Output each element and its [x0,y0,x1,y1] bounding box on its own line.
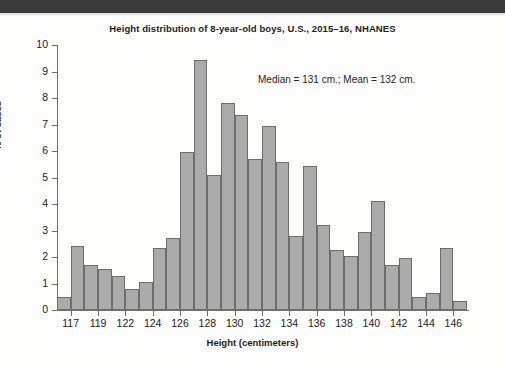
y-axis-tick [52,310,58,311]
histogram-bar [153,248,167,310]
histogram-bar [276,162,290,310]
chart-title: Height distribution of 8-year-old boys, … [0,23,505,34]
histogram-bar [166,238,180,310]
x-axis-tick [153,311,154,316]
x-axis-title: Height (centimeters) [0,337,505,348]
x-axis-tick [125,311,126,316]
histogram-bar [412,297,426,310]
histogram-bar [317,225,331,310]
histogram-bar [303,166,317,310]
x-axis-tick [289,311,290,316]
histogram-bar [262,126,276,310]
histogram-bar [84,265,98,310]
x-axis-tick [344,311,345,316]
y-axis-tick-label: 7 [18,118,48,130]
x-axis-tick [262,311,263,316]
y-axis-tick-label: 3 [18,224,48,236]
y-axis-tick-label: 8 [18,91,48,103]
histogram-bar [344,256,358,310]
histogram-bar [235,115,249,310]
histogram-bar [426,293,440,310]
y-axis-tick-label: 5 [18,171,48,183]
histogram-bar [98,269,112,310]
histogram-bar [248,159,262,310]
x-axis-tick [399,311,400,316]
y-axis-tick-label: 4 [18,197,48,209]
page-band-shadow [0,13,505,16]
y-axis-tick-label: 0 [18,303,48,315]
x-axis-line [57,310,469,311]
y-axis-tick-label: 6 [18,144,48,156]
x-axis-tick [426,311,427,316]
histogram-bar [180,152,194,310]
histogram-bar [139,282,153,310]
histogram-bar [440,248,454,310]
histogram-bar [385,265,399,310]
x-axis-tick [371,311,372,316]
histogram-bar [289,236,303,310]
histogram-bar [358,232,372,310]
x-axis-tick [207,311,208,316]
y-axis-tick-label: 2 [18,250,48,262]
histogram-bars [57,45,467,310]
histogram-bar [112,276,126,310]
x-axis-tick [180,311,181,316]
x-axis-tick [71,311,72,316]
histogram-bar [71,246,85,310]
histogram-bar [221,103,235,310]
x-axis-tick-label: 146 [433,317,473,329]
y-axis-title: % of cases [0,101,3,150]
page-top-band [0,0,505,13]
x-axis-tick [453,311,454,316]
histogram-bar [207,175,221,310]
histogram-bar [194,60,208,310]
figure-page: Height distribution of 8-year-old boys, … [0,0,505,369]
histogram-bar [399,258,413,310]
y-axis-tick-label: 1 [18,277,48,289]
x-axis-tick [317,311,318,316]
y-axis-tick-label: 9 [18,65,48,77]
histogram-bar [125,289,139,310]
histogram-bar [57,297,71,310]
x-axis-tick [235,311,236,316]
x-axis-tick [98,311,99,316]
histogram-bar [330,250,344,310]
histogram-bar [453,301,467,310]
y-axis-tick-label: 10 [18,38,48,50]
histogram-bar [371,201,385,310]
